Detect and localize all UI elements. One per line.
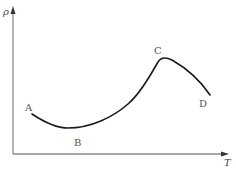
resistivity-temperature-diagram: ρ T A B C D — [0, 0, 236, 169]
point-label-a: A — [24, 102, 33, 113]
y-axis-arrow-icon — [11, 6, 16, 14]
point-label-c: C — [154, 45, 162, 56]
y-axis-label: ρ — [2, 6, 9, 17]
point-label-b: B — [74, 137, 81, 148]
point-label-d: D — [199, 98, 207, 109]
resistivity-curve — [32, 58, 210, 128]
x-axis-label: T — [224, 157, 232, 168]
x-axis-arrow-icon — [221, 152, 229, 157]
